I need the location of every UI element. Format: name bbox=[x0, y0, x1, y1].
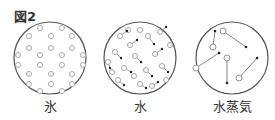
ice-caption: 氷 bbox=[10, 96, 90, 115]
steam-panel bbox=[193, 22, 268, 94]
water-panel bbox=[104, 22, 176, 94]
steam-caption: 水蒸気 bbox=[192, 96, 272, 115]
ice-panel bbox=[14, 22, 86, 94]
water-caption: 水 bbox=[100, 96, 180, 115]
